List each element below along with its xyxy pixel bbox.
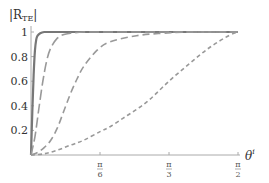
- x-tick: π6: [97, 152, 103, 179]
- y-tick: 0.4: [11, 100, 35, 113]
- y-tick-label: 1: [21, 26, 28, 39]
- y-axis-label: |RTE|: [9, 8, 37, 23]
- y-tick-label: 0.8: [11, 51, 29, 64]
- curve-4-short-dash: [31, 32, 238, 155]
- x-tick-numerator: π: [166, 160, 171, 169]
- x-tick: π2: [235, 152, 241, 179]
- reflection-coefficient-chart: 0.20.40.60.81 π6π3π2 |RTE| θi: [0, 0, 269, 183]
- axes: [31, 26, 240, 155]
- y-tick-label: 0.6: [11, 75, 29, 88]
- curve-1-solid: [31, 32, 238, 155]
- x-ticks: π6π3π2: [97, 152, 241, 179]
- x-tick-numerator: π: [235, 160, 240, 169]
- y-tick-label: 0.4: [11, 100, 29, 113]
- y-tick: 0.8: [11, 51, 35, 64]
- y-ticks: 0.20.40.60.81: [11, 26, 35, 137]
- y-tick: 1: [21, 26, 34, 39]
- x-tick-numerator: π: [97, 160, 102, 169]
- y-tick: 0.6: [11, 75, 35, 88]
- x-tick-denominator: 6: [97, 170, 102, 179]
- x-tick-denominator: 2: [235, 170, 240, 179]
- x-tick: π3: [166, 152, 172, 179]
- curve-2-long-dash: [31, 32, 238, 155]
- y-tick: 0.2: [11, 124, 35, 137]
- curve-3-medium-dash: [31, 32, 238, 155]
- series-group: [31, 32, 238, 155]
- y-tick-label: 0.2: [11, 124, 29, 137]
- x-axis-label: θi: [245, 147, 255, 163]
- x-tick-denominator: 3: [166, 170, 171, 179]
